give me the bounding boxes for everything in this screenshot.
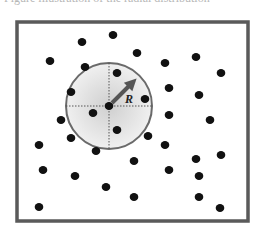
point-dot [165, 84, 174, 92]
point-dot [105, 102, 114, 110]
point-dot [217, 69, 226, 77]
point-dot [217, 151, 226, 159]
point-dot [35, 141, 44, 149]
point-dot [39, 166, 48, 174]
point-dot [102, 183, 111, 191]
point-dot [165, 166, 174, 174]
point-dot [161, 59, 170, 67]
point-dot [71, 172, 80, 180]
point-dot [46, 57, 55, 65]
point-dot [89, 109, 98, 117]
point-dot [192, 53, 201, 61]
point-dot [206, 116, 215, 124]
point-dot [165, 111, 174, 119]
point-dot [57, 116, 66, 124]
point-dot [144, 132, 153, 140]
point-dot [130, 193, 139, 201]
point-dot [67, 134, 76, 142]
point-dot [109, 31, 118, 39]
point-dot [195, 193, 204, 201]
point-dot [113, 69, 122, 77]
point-dot [113, 126, 122, 134]
point-dot [195, 91, 204, 99]
point-dot [35, 203, 44, 211]
point-dot [192, 155, 201, 163]
radius-label: R [124, 92, 133, 106]
point-dot [78, 38, 87, 46]
point-dot [133, 49, 142, 57]
point-dot [81, 63, 90, 71]
point-dot [92, 147, 101, 155]
point-dot [130, 157, 139, 165]
point-dot [141, 95, 150, 103]
point-dot [67, 88, 76, 96]
point-dot [161, 141, 170, 149]
point-dot [195, 172, 204, 180]
radius-diagram: R [0, 0, 261, 234]
point-dot [216, 204, 225, 212]
